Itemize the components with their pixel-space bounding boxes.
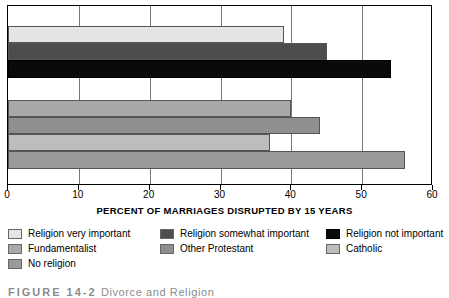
x-axis-tick-label: 20 xyxy=(129,189,169,201)
legend-item-label: Catholic xyxy=(346,243,382,254)
x-axis-tick-label: 0 xyxy=(0,189,27,201)
x-axis-tick-label: 60 xyxy=(412,189,449,201)
bar xyxy=(8,60,391,78)
legend-item-no-religion[interactable]: No religion xyxy=(8,256,76,271)
legend-row: Religion very important Religion somewha… xyxy=(8,226,445,241)
x-axis-tick-label: 50 xyxy=(341,189,381,201)
bar xyxy=(8,100,291,117)
x-axis-title: PERCENT OF MARRIAGES DISRUPTED BY 15 YEA… xyxy=(0,205,449,216)
bar xyxy=(8,43,327,60)
x-axis-tick-label: 40 xyxy=(270,189,310,201)
legend-item-label: Religion not important xyxy=(346,228,443,239)
legend-item-label: No religion xyxy=(28,258,76,269)
legend-swatch-icon xyxy=(160,229,174,239)
bar xyxy=(8,134,270,151)
chart-legend: Religion very important Religion somewha… xyxy=(8,226,445,271)
bar xyxy=(8,26,284,43)
bar xyxy=(8,151,405,169)
legend-row: Fundamentalist Other Protestant Catholic xyxy=(8,241,445,256)
legend-item-label: Fundamentalist xyxy=(28,243,96,254)
figure-caption-text: Divorce and Religion xyxy=(101,286,215,298)
legend-item-label: Other Protestant xyxy=(180,243,253,254)
legend-item-catholic[interactable]: Catholic xyxy=(326,241,382,256)
legend-item-religion-very-important[interactable]: Religion very important xyxy=(8,226,130,241)
x-axis-tick-label: 30 xyxy=(200,189,240,201)
legend-item-label: Religion somewhat important xyxy=(180,228,309,239)
legend-swatch-icon xyxy=(326,229,340,239)
x-axis-tick-label: 10 xyxy=(58,189,98,201)
figure-caption-number: FIGURE 14-2 xyxy=(8,286,97,298)
figure-caption: FIGURE 14-2 Divorce and Religion xyxy=(8,286,214,298)
legend-item-religion-not-important[interactable]: Religion not important xyxy=(326,226,443,241)
legend-item-religion-somewhat-important[interactable]: Religion somewhat important xyxy=(160,226,309,241)
legend-swatch-icon xyxy=(326,244,340,254)
legend-item-other-protestant[interactable]: Other Protestant xyxy=(160,241,253,256)
legend-swatch-icon xyxy=(8,229,22,239)
plot-area xyxy=(7,5,432,185)
legend-item-fundamentalist[interactable]: Fundamentalist xyxy=(8,241,96,256)
x-axis-tick-labels: 0102030405060 xyxy=(0,189,449,203)
legend-swatch-icon xyxy=(8,244,22,254)
bars-layer xyxy=(8,6,431,184)
legend-swatch-icon xyxy=(8,259,22,269)
legend-row: No religion xyxy=(8,256,445,271)
bar xyxy=(8,117,320,134)
legend-swatch-icon xyxy=(160,244,174,254)
legend-item-label: Religion very important xyxy=(28,228,130,239)
